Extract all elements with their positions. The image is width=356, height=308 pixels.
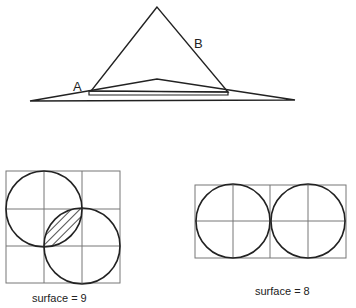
overlap-strip [89, 91, 228, 95]
caption-left: surface = 9 [32, 292, 87, 304]
top-figure: A B [30, 7, 295, 101]
bottom-left-figure: surface = 9 [6, 171, 120, 304]
diagram-canvas: A B surface = 9 surface = 8 [0, 0, 356, 308]
label-a: A [73, 79, 82, 94]
caption-right: surface = 8 [255, 285, 310, 297]
label-b: B [194, 36, 203, 51]
triangle-a-flat [30, 79, 295, 101]
bottom-right-figure: surface = 8 [195, 184, 346, 297]
